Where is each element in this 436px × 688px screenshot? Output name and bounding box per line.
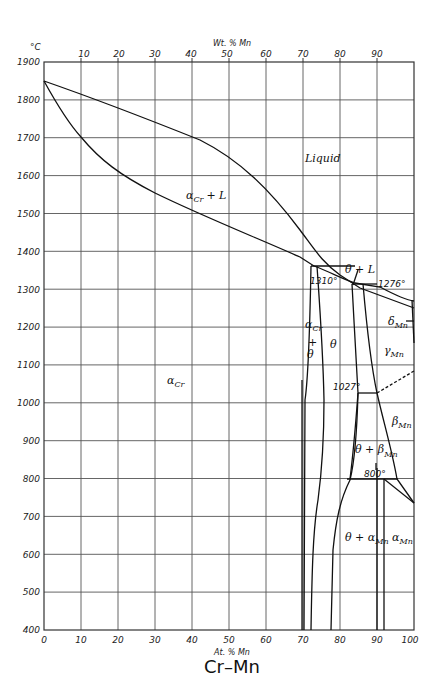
svg-text:1200: 1200: [17, 322, 40, 332]
svg-text:40: 40: [186, 635, 198, 645]
label-alpha-mn: αMn: [392, 531, 413, 546]
annotation-1276: 1276°: [378, 279, 405, 289]
svg-text:30: 30: [149, 49, 161, 59]
svg-text:60: 60: [260, 49, 272, 59]
svg-text:400: 400: [23, 625, 40, 635]
svg-text:1500: 1500: [17, 209, 40, 219]
svg-text:80: 80: [334, 635, 346, 645]
annotation-800: 800°: [364, 469, 386, 479]
solidus-curve: [44, 81, 314, 266]
label-theta-beta-mn: θ + βMn: [355, 443, 398, 459]
theta-right-boundary: [331, 284, 358, 630]
svg-text:70: 70: [297, 635, 309, 645]
label-theta: θ: [330, 338, 337, 351]
svg-text:10: 10: [75, 635, 87, 645]
label-beta-mn: βMn: [391, 415, 412, 430]
label-theta-l: θ + L: [345, 263, 375, 276]
svg-text:20: 20: [113, 49, 125, 59]
x2-axis-title: Wt. % Mn: [213, 39, 251, 48]
label-alpha-cr: αCr: [167, 374, 186, 389]
svg-text:40: 40: [185, 49, 197, 59]
svg-text:1000: 1000: [17, 398, 40, 408]
label-liquid: Liquid: [304, 152, 341, 165]
label-gamma-mn: γMn: [384, 344, 404, 359]
diagram-caption: Cr–Mn: [204, 656, 260, 677]
svg-text:70: 70: [297, 49, 309, 59]
svg-text:90: 90: [371, 49, 383, 59]
svg-text:10: 10: [78, 49, 90, 59]
grid: [44, 62, 414, 630]
x2-axis-labels: 10 20 30 40 50 60 70 80 90: [78, 49, 383, 59]
gamma-mn-left: [363, 284, 377, 393]
svg-text:50: 50: [223, 635, 235, 645]
svg-text:80: 80: [334, 49, 346, 59]
svg-text:20: 20: [112, 635, 124, 645]
label-delta-mn: δMn: [388, 315, 408, 330]
label-alpha-cr-l: αCr+ L: [186, 189, 226, 204]
annotation-1310: 1310°: [310, 276, 337, 286]
svg-text:50: 50: [221, 49, 233, 59]
x-axis-labels: 0 10 20 30 40 50 60 70 80 90 100: [41, 635, 419, 645]
svg-text:1300: 1300: [17, 285, 40, 295]
svg-text:60: 60: [260, 635, 272, 645]
y-axis-labels: 1900 1800 1700 1600 1500 1400 1300 1200 …: [17, 57, 40, 635]
theta-left-boundary: [311, 266, 324, 630]
svg-text:0: 0: [41, 635, 47, 645]
svg-text:1100: 1100: [17, 360, 40, 370]
svg-text:90: 90: [371, 635, 383, 645]
svg-text:500: 500: [23, 587, 40, 597]
label-alpha-cr-theta-theta: θ: [307, 348, 314, 361]
beta-mn-left: [350, 393, 358, 479]
svg-text:1400: 1400: [17, 247, 40, 257]
svg-text:800: 800: [23, 474, 40, 484]
svg-text:1900: 1900: [17, 57, 40, 67]
svg-text:1700: 1700: [17, 133, 40, 143]
svg-text:1800: 1800: [17, 95, 40, 105]
svg-text:900: 900: [23, 436, 40, 446]
label-theta-alpha-mn: θ + αMn: [345, 531, 389, 546]
annotation-1027: 1027°: [333, 382, 360, 392]
svg-text:100: 100: [401, 635, 418, 645]
gamma-beta-dashed-line: [377, 371, 414, 393]
svg-text:30: 30: [149, 635, 161, 645]
y-unit-label: °C: [30, 42, 42, 52]
svg-text:600: 600: [23, 550, 40, 560]
svg-text:700: 700: [23, 512, 40, 522]
svg-text:1600: 1600: [17, 171, 40, 181]
phase-diagram-chart: °C 1900 1800 1700 1600 1500 1400 1300 12…: [0, 0, 436, 688]
